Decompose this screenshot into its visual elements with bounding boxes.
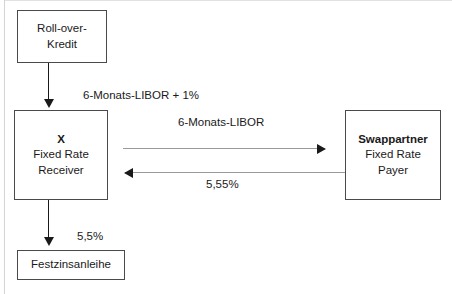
page-top-rule <box>5 0 452 1</box>
node-swappartner-line-1: Swappartner <box>358 132 428 148</box>
node-x-fixed-rate-receiver: X Fixed Rate Receiver <box>14 110 108 200</box>
swap-diagram: Roll-over- Kredit 6-Monats-LIBOR + 1% X … <box>0 0 452 294</box>
node-swappartner-fixed-rate-payer: Swappartner Fixed Rate Payer <box>345 110 441 200</box>
label-fixed-rate-received: 5,55% <box>206 179 239 191</box>
node-festzinsanleihe: Festzinsanleihe <box>17 250 125 280</box>
arrowhead-left-icon <box>124 168 133 178</box>
label-libor-plus-1: 6-Monats-LIBOR + 1% <box>83 90 199 102</box>
node-x-line-3: Receiver <box>38 163 83 179</box>
arrowhead-right-icon <box>317 144 326 154</box>
label-fixed-rate-paid: 5,5% <box>77 231 103 243</box>
arrowhead-down-icon <box>44 99 54 108</box>
page-left-rule <box>4 0 5 294</box>
node-swappartner-line-2: Fixed Rate <box>365 147 421 163</box>
node-x-line-1: X <box>57 132 65 148</box>
arrow-shaft <box>123 148 325 149</box>
node-roll-over-kredit: Roll-over- Kredit <box>17 10 107 63</box>
arrowhead-down-icon <box>44 237 54 246</box>
arrow-shaft <box>48 200 49 237</box>
node-festzinsanleihe-line-1: Festzinsanleihe <box>31 257 111 273</box>
node-x-line-2: Fixed Rate <box>33 147 89 163</box>
node-roll-over-kredit-line-2: Kredit <box>47 37 77 53</box>
arrow-shaft <box>48 63 49 99</box>
label-libor: 6-Monats-LIBOR <box>178 117 264 129</box>
node-roll-over-kredit-line-1: Roll-over- <box>37 21 87 37</box>
arrow-shaft <box>125 172 345 173</box>
node-swappartner-line-3: Payer <box>378 163 408 179</box>
